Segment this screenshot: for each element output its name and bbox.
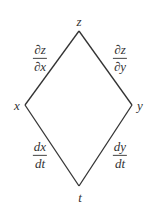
edge-label-dz-dx: ∂z ∂x	[33, 43, 47, 73]
fraction-numerator: dy	[113, 140, 127, 155]
node-label-x: x	[14, 99, 20, 112]
edge-label-dz-dy: ∂z ∂y	[113, 43, 127, 73]
edge-label-dx-dt: dx dt	[33, 140, 47, 170]
node-label-z: z	[76, 15, 81, 28]
fraction-numerator: ∂z	[113, 43, 126, 58]
fraction-denominator: ∂x	[33, 59, 47, 74]
fraction-denominator: dt	[34, 156, 46, 171]
edge-label-dy-dt: dy dt	[113, 140, 127, 170]
fraction-numerator: dx	[33, 140, 47, 155]
fraction-denominator: ∂y	[113, 59, 127, 74]
tree-diagram-lines	[0, 0, 151, 209]
fraction-numerator: ∂z	[33, 43, 46, 58]
fraction-denominator: dt	[114, 156, 126, 171]
node-label-y: y	[137, 99, 143, 112]
node-label-t: t	[78, 191, 82, 204]
